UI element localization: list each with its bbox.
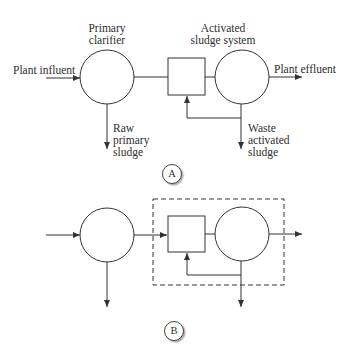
primary-clarifier-circle-b: [80, 208, 134, 262]
return-sludge-line: [187, 96, 241, 118]
label-line: sludge system: [183, 34, 263, 46]
waste-activated-sludge-label: Waste activated sludge: [248, 122, 290, 158]
aeration-tank-square: [168, 58, 205, 95]
diagram-a-tag: A: [162, 164, 182, 184]
return-sludge-line-b: [187, 253, 241, 275]
label-line: Primary: [80, 22, 134, 34]
label-line: sludge: [113, 146, 149, 158]
label-line: primary: [113, 134, 149, 146]
system-boundary-dashed-box: [153, 199, 284, 285]
diagram-b-tag: B: [164, 321, 184, 341]
plant-influent-label: Plant influent: [13, 64, 75, 76]
secondary-clarifier-circle: [215, 50, 269, 104]
label-line: Activated: [183, 22, 263, 34]
plant-effluent-label: Plant effluent: [274, 63, 336, 75]
activated-sludge-system-label: Activated sludge system: [183, 22, 263, 46]
label-line: Raw: [113, 122, 149, 134]
primary-clarifier-label: Primary clarifier: [80, 22, 134, 46]
raw-primary-sludge-label: Raw primary sludge: [113, 122, 149, 158]
label-line: activated: [248, 134, 290, 146]
primary-clarifier-circle: [80, 50, 134, 104]
secondary-clarifier-circle-b: [215, 207, 269, 261]
aeration-tank-square-b: [168, 216, 205, 252]
diagram-b: [46, 199, 302, 307]
label-line: Waste: [248, 122, 290, 134]
label-line: clarifier: [80, 34, 134, 46]
label-line: sludge: [248, 146, 290, 158]
